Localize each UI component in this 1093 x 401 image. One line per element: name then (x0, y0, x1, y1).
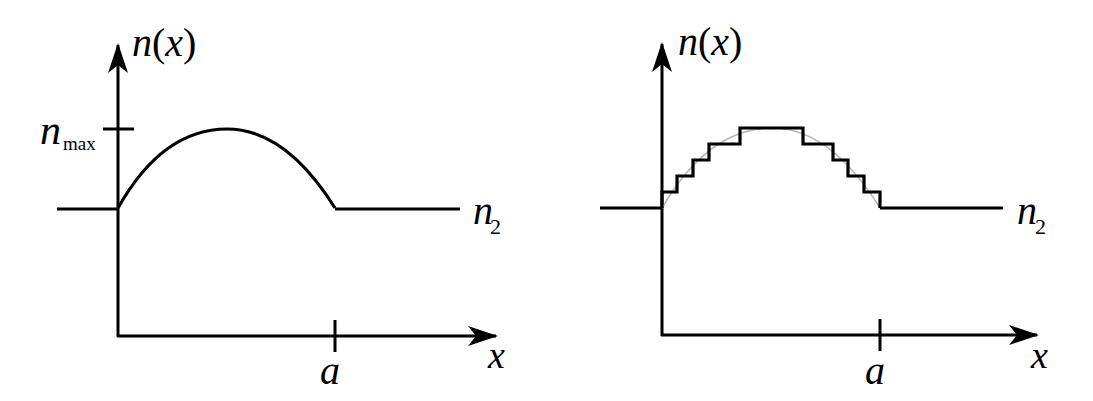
right-a-label: a (865, 348, 885, 393)
svg-text:n: n (40, 107, 61, 153)
left-x-axis-label: x (487, 334, 505, 376)
graded-index-diagram: n(x) x a n max n 2 n(x) x a (0, 0, 1093, 401)
right-y-axis-label: n(x) (678, 19, 742, 64)
svg-text:2: 2 (1035, 214, 1046, 239)
right-n2-label: n 2 (1017, 188, 1046, 239)
right-staircase-profile (662, 128, 880, 208)
left-a-label: a (320, 348, 340, 393)
svg-text:2: 2 (490, 214, 501, 239)
left-index-profile-curve (118, 129, 335, 208)
left-n2-label: n 2 (473, 188, 501, 239)
svg-text:max: max (63, 133, 96, 154)
left-nmax-label: n max (40, 107, 96, 154)
right-x-axis-label: x (1030, 334, 1048, 376)
svg-text:n: n (1017, 188, 1037, 233)
left-panel: n(x) x a n max n 2 (40, 20, 505, 393)
right-panel: n(x) x a n 2 (600, 19, 1048, 393)
left-y-axis-label: n(x) (132, 20, 196, 65)
